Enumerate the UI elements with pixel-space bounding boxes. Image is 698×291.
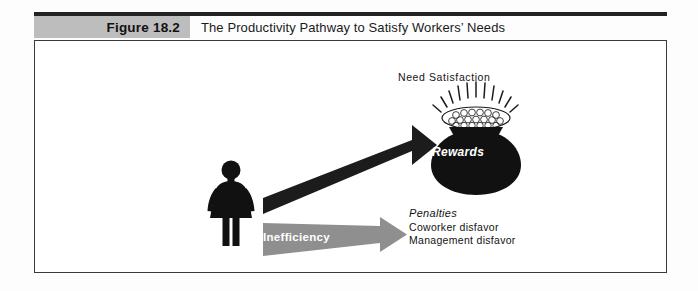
figure-canvas: Need Satisfaction Rewards Productivity I…	[35, 41, 668, 274]
female-figure-icon	[208, 161, 255, 247]
rewards-label: Rewards	[432, 145, 484, 159]
coin-pile-icon	[442, 107, 510, 129]
figure-frame: Need Satisfaction Rewards Productivity I…	[34, 40, 667, 273]
figure-number-box: Figure 18.2	[34, 16, 190, 38]
pot-of-coins-icon	[431, 127, 521, 195]
figure-number-label: Figure 18.2	[107, 20, 180, 35]
figure-header: Figure 18.2 The Productivity Pathway to …	[34, 12, 667, 38]
diagram-graphics	[35, 41, 668, 274]
penalties-block: Penalties Coworker disfavor Management d…	[409, 207, 516, 248]
need-satisfaction-label: Need Satisfaction	[398, 71, 491, 83]
inefficiency-arrow-label: Inefficiency	[263, 231, 330, 243]
penalties-title: Penalties	[409, 207, 516, 221]
penalty-item: Management disfavor	[409, 234, 516, 248]
figure-title-area: The Productivity Pathway to Satisfy Work…	[190, 16, 667, 38]
figure-title: The Productivity Pathway to Satisfy Work…	[201, 20, 505, 35]
penalty-item: Coworker disfavor	[409, 221, 516, 235]
